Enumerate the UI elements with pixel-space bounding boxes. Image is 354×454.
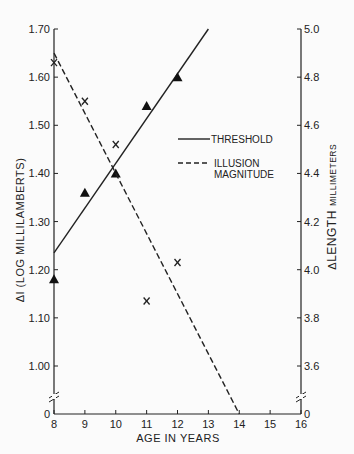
left-y-tick-label: 1.70 xyxy=(29,23,50,35)
plot-area xyxy=(49,29,239,414)
x-tick-label: 8 xyxy=(51,418,57,430)
triangle-marker xyxy=(80,188,90,197)
left-y-tick-label: 1.50 xyxy=(29,119,50,131)
legend-illusion-label-2: MAGNITUDE xyxy=(214,169,274,180)
right-y-tick-label: 4.2 xyxy=(304,216,319,228)
legend: THRESHOLD ILLUSION MAGNITUDE xyxy=(178,134,274,180)
x-tick-label: 15 xyxy=(264,418,276,430)
x-tick-label: 12 xyxy=(171,418,183,430)
left-y-tick-label: 1.30 xyxy=(29,216,50,228)
x-tick-label: 9 xyxy=(82,418,88,430)
right-y-tick-label: 3.6 xyxy=(304,360,319,372)
chart-canvas: 1.701.601.501.401.301.201.101.000 5.04.8… xyxy=(0,0,354,454)
legend-threshold-label: THRESHOLD xyxy=(211,134,273,145)
x-axis-title: AGE IN YEARS xyxy=(136,432,219,444)
left-y-tick-label: 1.10 xyxy=(29,312,50,324)
x-tick-label: 16 xyxy=(295,418,307,430)
right-y-axis: 5.04.84.64.44.24.03.83.60 xyxy=(296,23,319,420)
x-tick-label: 10 xyxy=(110,418,122,430)
right-y-tick-label: 4.4 xyxy=(304,167,319,179)
right-axis-delta: Δ xyxy=(326,262,338,270)
right-y-tick-label: 4.8 xyxy=(304,71,319,83)
left-y-axis: 1.701.601.501.401.301.201.101.000 xyxy=(29,23,59,420)
right-axis-length: LENGTH xyxy=(325,210,339,262)
left-y-tick-label: 1.60 xyxy=(29,71,50,83)
right-y-tick-label: 4.0 xyxy=(304,264,319,276)
left-y-tick-label: 1.40 xyxy=(29,167,50,179)
right-axis-unit: MILLIMETERS xyxy=(328,144,338,206)
right-y-axis-title: Δ LENGTH MILLIMETERS xyxy=(325,144,339,270)
left-y-tick-label: 0 xyxy=(44,408,50,420)
triangle-marker xyxy=(142,101,152,110)
x-axis: 8910111213141516 xyxy=(51,410,307,430)
triangle-marker xyxy=(49,274,59,283)
left-y-axis-title: ΔI (LOG MILLILAMBERTS) xyxy=(14,158,26,303)
x-tick-label: 13 xyxy=(202,418,214,430)
left-y-tick-label: 1.20 xyxy=(29,264,50,276)
threshold-series xyxy=(49,29,208,283)
x-tick-label: 11 xyxy=(141,418,152,430)
right-y-tick-label: 4.6 xyxy=(304,119,319,131)
right-y-tick-label: 5.0 xyxy=(304,23,319,35)
legend-illusion-label-1: ILLUSION xyxy=(214,158,260,169)
right-y-tick-label: 3.8 xyxy=(304,312,319,324)
x-tick-label: 14 xyxy=(233,418,245,430)
left-y-tick-label: 1.00 xyxy=(29,360,50,372)
triangle-marker xyxy=(111,168,121,177)
triangle-marker xyxy=(173,72,183,81)
